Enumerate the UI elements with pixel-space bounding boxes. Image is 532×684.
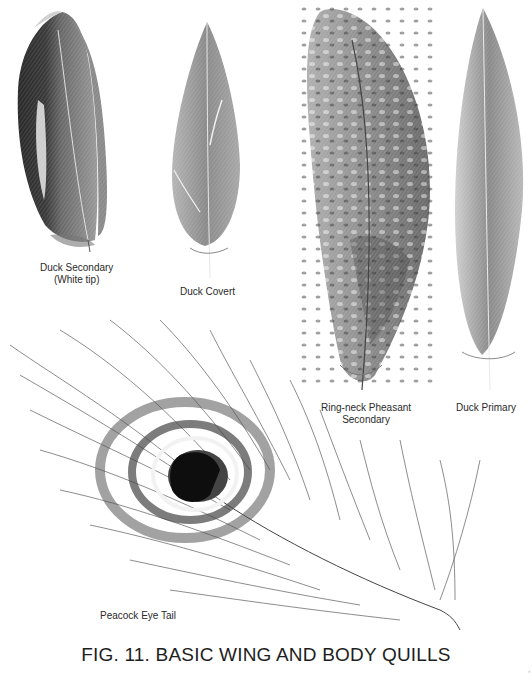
duck-covert-feather bbox=[170, 20, 242, 278]
label-ring-neck-pheasant: Ring-neck Pheasant Secondary bbox=[321, 402, 411, 426]
label-line: Secondary bbox=[321, 414, 411, 426]
label-line: Ring-neck Pheasant bbox=[321, 402, 411, 414]
label-duck-secondary: Duck Secondary (White tip) bbox=[40, 262, 113, 286]
label-line: Duck Covert bbox=[180, 286, 235, 298]
duck-primary-feather bbox=[452, 6, 532, 390]
feather-illustration bbox=[0, 0, 532, 684]
duck-secondary-feather bbox=[15, 10, 110, 252]
label-line: (White tip) bbox=[40, 274, 113, 286]
ring-neck-pheasant-feather bbox=[300, 5, 435, 390]
page-mark: ʼ bbox=[528, 670, 530, 679]
label-line: Peacock Eye Tail bbox=[100, 610, 176, 622]
figure-caption: FIG. 11. BASIC WING AND BODY QUILLS bbox=[0, 644, 532, 666]
label-line: Duck Primary bbox=[456, 402, 516, 414]
label-duck-primary: Duck Primary bbox=[456, 402, 516, 414]
label-peacock-eye-tail: Peacock Eye Tail bbox=[100, 610, 176, 622]
label-duck-covert: Duck Covert bbox=[180, 286, 235, 298]
label-line: Duck Secondary bbox=[40, 262, 113, 274]
